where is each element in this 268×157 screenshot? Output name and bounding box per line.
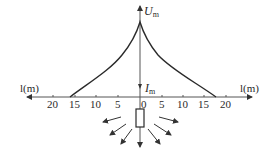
svg-text:10: 10 — [90, 98, 102, 110]
i-m-label: Im — [144, 81, 156, 96]
svg-text:5: 5 — [115, 98, 121, 110]
potential-curve — [70, 22, 216, 97]
grounding-electrode — [136, 109, 144, 127]
svg-text:15: 15 — [69, 98, 81, 110]
potential-distribution-diagram: Um Im l(m) l(m) 20 15 10 5 0 5 10 15 20 — [0, 0, 268, 157]
arrow-icon — [159, 117, 178, 122]
arrow-icon — [103, 117, 121, 122]
left-axis-label: l(m) — [20, 82, 39, 95]
arrow-icon — [148, 129, 160, 144]
svg-text:15: 15 — [198, 98, 210, 110]
tick-labels-left: 20 15 10 5 — [47, 98, 121, 110]
svg-text:0: 0 — [141, 98, 147, 110]
current-marker-icon — [138, 84, 142, 89]
svg-text:5: 5 — [159, 98, 165, 110]
arrow-icon — [154, 124, 171, 135]
svg-text:20: 20 — [220, 98, 232, 110]
svg-text:20: 20 — [47, 98, 59, 110]
svg-text:10: 10 — [177, 98, 189, 110]
right-axis-label: l(m) — [240, 82, 259, 95]
u-m-label: Um — [144, 4, 160, 19]
tick-labels-right: 0 5 10 15 20 — [141, 98, 232, 110]
arrow-icon — [110, 124, 126, 135]
arrow-icon — [121, 129, 132, 144]
